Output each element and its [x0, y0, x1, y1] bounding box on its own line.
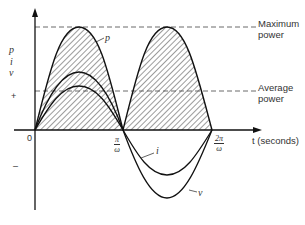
max-power-label-line1: Maximum: [258, 18, 299, 29]
curve-label-v: v: [198, 187, 202, 198]
avg-power-label: Average power: [258, 82, 293, 104]
x-axis-arrow-icon: [253, 127, 262, 133]
p-leader: [96, 38, 104, 42]
curve-label-p: p: [105, 32, 110, 43]
i-leader: [141, 153, 154, 158]
tick-pi-num: π: [114, 135, 120, 145]
tick-2pi-den: ω: [214, 144, 224, 153]
y-label-p: p: [9, 44, 14, 55]
y-label-i: i: [10, 56, 13, 67]
tick-pi-over-omega: π ω: [114, 135, 120, 154]
tick-pi-den: ω: [114, 145, 120, 154]
positive-sign: +: [11, 91, 16, 102]
curve-label-i: i: [156, 145, 159, 156]
max-power-label: Maximum power: [258, 18, 299, 40]
v-leader: [189, 190, 197, 192]
origin-label: 0: [27, 133, 32, 144]
x-axis-label: t (seconds): [252, 135, 299, 146]
y-axis-arrow-icon: [32, 8, 38, 17]
tick-2pi-num: 2π: [214, 134, 224, 144]
tick-2pi-over-omega: 2π ω: [214, 134, 224, 153]
negative-sign: –: [13, 161, 18, 172]
avg-power-label-line1: Average: [258, 82, 293, 93]
y-label-v: v: [9, 67, 13, 78]
max-power-label-line2: power: [258, 29, 299, 40]
avg-power-label-line2: power: [258, 93, 293, 104]
